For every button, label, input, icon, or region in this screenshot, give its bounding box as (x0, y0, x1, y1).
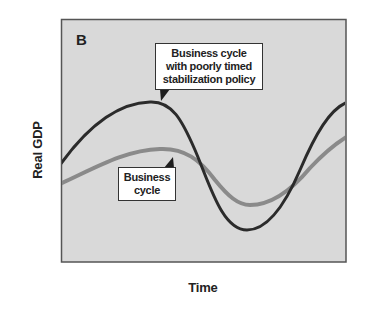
callout-policy-line-2: with poorly timed (156, 60, 262, 73)
panel-label: B (76, 31, 87, 48)
callout-poorly-timed-policy: Business cycle with poorly timed stabili… (155, 43, 263, 90)
callout-policy-line-1: Business cycle (156, 47, 262, 60)
y-axis-label: Real GDP (30, 121, 45, 179)
x-axis-label: Time (188, 280, 217, 295)
callout-cycle-line-2: cycle (119, 184, 175, 197)
callout-policy-line-3: stabilization policy (156, 73, 262, 86)
chart-figure: B Real GDP Time Business cycle with poor… (0, 0, 370, 316)
callout-cycle-line-1: Business (119, 171, 175, 184)
callout-business-cycle: Business cycle (118, 167, 176, 201)
